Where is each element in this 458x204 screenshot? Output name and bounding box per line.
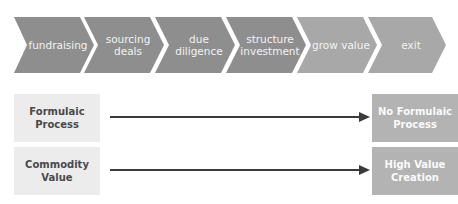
box-commodity-value: Commodity Value [14,147,100,195]
step-label-grow-value: grow value [297,16,377,74]
arrow-line-1 [110,116,362,118]
step-label-structure-investment: structure investment [226,16,306,74]
arrowhead-2-icon [359,165,370,175]
step-label-sourcing-deals: sourcing deals [84,16,164,74]
arrowhead-1-icon [359,112,370,122]
step-label-fundraising: fundraising [14,16,94,74]
arrow-line-2 [110,169,362,171]
box-formulaic-process: Formulaic Process [14,94,100,142]
step-label-exit: exit [368,16,446,74]
step-label-due-diligence: due diligence [155,16,235,74]
box-no-formulaic-process: No Formulaic Process [372,94,458,142]
process-flow: fundraising sourcing deals due diligence… [0,0,456,90]
box-high-value-creation: High Value Creation [372,147,458,195]
